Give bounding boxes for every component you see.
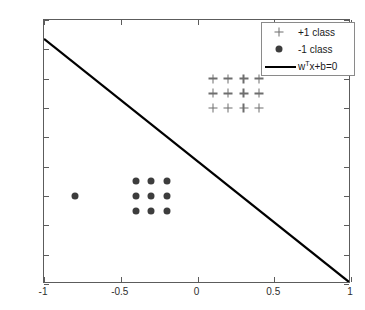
x-tick-label: -0.5 (111, 287, 128, 297)
positive-class-point (254, 104, 263, 113)
legend-label-decision-boundary: wTx+b=0 (298, 61, 337, 72)
negative-class-point (163, 207, 170, 214)
y-tick-mark (44, 284, 49, 285)
circle-marker-icon (262, 41, 298, 58)
legend-label-xb: x+b=0 (310, 61, 338, 72)
x-tick-label: -1 (39, 287, 48, 297)
legend-label-negative-class: -1 class (298, 44, 332, 55)
negative-class-point (148, 193, 155, 200)
y-tick-mark (344, 284, 349, 285)
plus-marker-icon (262, 24, 298, 41)
positive-class-point (239, 74, 248, 83)
legend-item-positive-class: +1 class (262, 24, 354, 41)
x-tick-label: 1 (347, 287, 353, 297)
positive-class-point (208, 89, 217, 98)
positive-class-point (224, 104, 233, 113)
negative-class-point (71, 193, 78, 200)
negative-class-point (148, 178, 155, 185)
negative-class-point (148, 207, 155, 214)
svm-scatter-figure: 0.80.60.40.20-0.2-0.4-0.6-0.8-1 -1-0.500… (0, 0, 365, 310)
negative-class-point (163, 193, 170, 200)
positive-class-point (224, 89, 233, 98)
positive-class-point (239, 104, 248, 113)
legend-label-positive-class: +1 class (298, 27, 335, 38)
negative-class-point (163, 178, 170, 185)
line-sample-icon (262, 58, 298, 75)
positive-class-point (208, 104, 217, 113)
positive-class-point (254, 89, 263, 98)
x-tick-mark (351, 277, 352, 282)
legend-item-negative-class: -1 class (262, 41, 354, 58)
positive-class-point (208, 74, 217, 83)
x-tick-label: 0 (194, 287, 200, 297)
negative-class-point (133, 207, 140, 214)
positive-class-point (224, 74, 233, 83)
negative-class-point (133, 178, 140, 185)
legend: +1 class -1 class wTx+b=0 (261, 22, 355, 76)
legend-item-decision-boundary: wTx+b=0 (262, 58, 354, 75)
x-tick-label: 0.5 (266, 287, 280, 297)
positive-class-point (239, 89, 248, 98)
negative-class-point (133, 193, 140, 200)
